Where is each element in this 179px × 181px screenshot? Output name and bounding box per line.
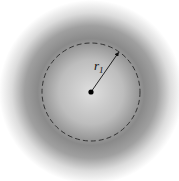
center-point [88, 89, 93, 94]
radial-field-diagram: r1 [0, 0, 179, 181]
